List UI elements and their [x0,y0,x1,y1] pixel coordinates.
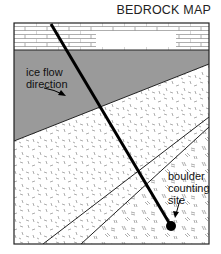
map-title: BEDROCK MAP [116,3,211,17]
site-label: boulder counting site [168,170,210,206]
site-dot [166,221,176,231]
ice-flow-label-line2: direction [26,78,68,90]
site-label-line2: counting [168,182,210,194]
ice-flow-label-line1: ice flow [26,66,68,78]
ice-flow-label: ice flow direction [26,66,68,90]
site-label-line3: site [168,194,210,206]
site-label-line1: boulder [168,170,210,182]
bedrock-map [0,0,221,254]
